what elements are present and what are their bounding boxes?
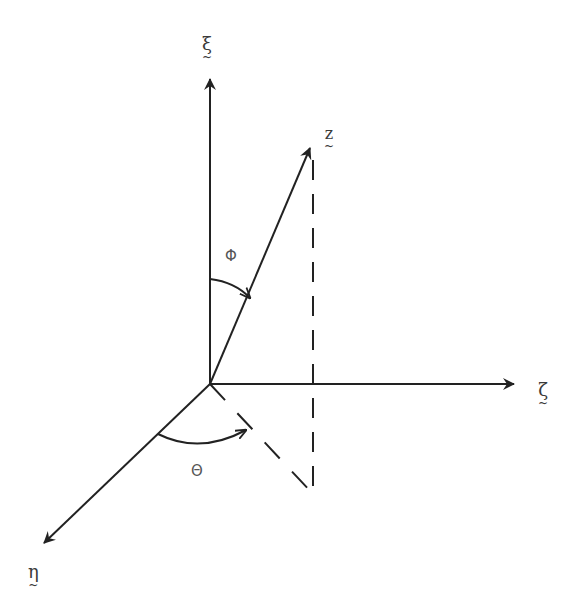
xi-axis-label: ξ ~ <box>202 35 212 63</box>
xi-tilde: ~ <box>202 51 212 63</box>
z-vector-label: z ~ <box>324 126 334 152</box>
phi-angle-label: Φ <box>225 249 237 264</box>
eta-tilde: ~ <box>28 579 39 591</box>
z-tilde: ~ <box>324 140 334 152</box>
eta-axis-label: η ~ <box>28 563 39 591</box>
zeta-axis-label: ζ ~ <box>538 381 548 409</box>
diagram-canvas <box>0 0 583 614</box>
theta-angle-label: Θ <box>191 464 203 479</box>
z-vector <box>210 148 310 384</box>
theta-angle-arc <box>158 430 246 444</box>
phi-angle-arc <box>210 279 250 298</box>
eta-axis <box>44 384 210 543</box>
zeta-tilde: ~ <box>538 397 548 409</box>
